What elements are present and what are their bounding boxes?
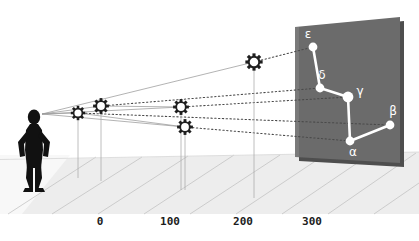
projected-star-beta <box>386 121 395 130</box>
axis-tick-100: 100 <box>160 215 180 228</box>
physical-stars <box>71 53 263 135</box>
panel-left-edge-shade <box>295 27 299 157</box>
projected-star-gamma <box>343 92 354 103</box>
axis-tick-0: 0 <box>97 215 104 228</box>
projected-star-epsilon <box>309 43 318 52</box>
sight-line-gamma-solid <box>42 107 181 114</box>
star-glyph-1 <box>71 106 85 120</box>
sight-line-epsilon-solid <box>42 62 254 114</box>
perspective-projection-figure: ε δ γ β α 0 100 200 300 <box>0 0 419 241</box>
star-glyph-3 <box>173 99 189 115</box>
label-beta: β <box>389 104 397 118</box>
observer-head <box>28 110 40 125</box>
label-alpha: α <box>349 145 357 159</box>
projected-star-delta <box>316 84 325 93</box>
star-glyph-2 <box>93 98 109 114</box>
observer-torso <box>25 124 43 168</box>
diagram-scene: ε δ γ β α 0 100 200 300 <box>0 0 419 241</box>
label-epsilon: ε <box>305 27 312 41</box>
label-delta: δ <box>318 68 325 82</box>
sight-line-alpha-solid <box>42 114 185 127</box>
star-glyph-5 <box>245 53 262 70</box>
star-glyph-4 <box>177 119 193 135</box>
distance-axis: 0 100 200 300 <box>97 215 322 228</box>
axis-tick-200: 200 <box>233 215 253 228</box>
sight-line-delta-extend <box>101 106 181 107</box>
sight-line-delta-dotted <box>101 88 320 106</box>
axis-tick-300: 300 <box>302 215 322 228</box>
label-gamma: γ <box>356 84 363 98</box>
